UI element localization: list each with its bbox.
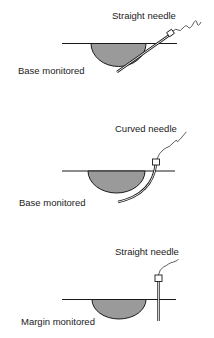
lesion-shape (88, 171, 145, 193)
needle-label: Straight needle (112, 10, 176, 21)
wire-lead (159, 259, 179, 275)
needle-label: Straight needle (115, 246, 179, 257)
needle-label: Curved needle (115, 123, 177, 134)
wire-lead (157, 132, 186, 159)
position-label: Base monitored (19, 197, 86, 208)
panel-3: Straight needle Margin monitored (21, 246, 179, 327)
panel-1: Straight needle Base monitored (18, 10, 201, 76)
wire-lead (173, 21, 201, 31)
lesion-shape (91, 44, 146, 67)
straight-needle-icon (155, 259, 179, 321)
position-label: Margin monitored (21, 316, 95, 327)
lesion-shape (92, 300, 146, 319)
needle-placement-diagram: Straight needle Base monitored Curved ne… (0, 0, 214, 338)
position-label: Base monitored (18, 65, 85, 76)
panel-2: Curved needle Base monitored (19, 123, 186, 208)
